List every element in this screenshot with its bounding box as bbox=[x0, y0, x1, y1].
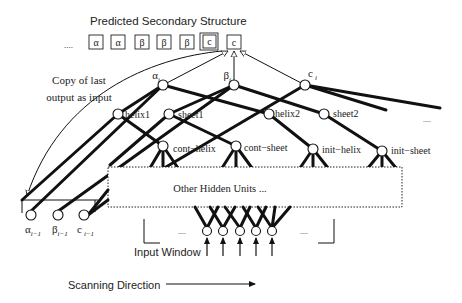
sequence-symbol: β bbox=[184, 37, 189, 48]
helix1-label: helix1 bbox=[125, 109, 150, 120]
coil-output-arrow bbox=[240, 51, 305, 85]
cont-helix-node bbox=[158, 141, 168, 151]
coil-prev-label: ci−1 bbox=[77, 223, 94, 238]
hidden-right-ellipsis: .... bbox=[423, 115, 431, 124]
feedback-label-line2: output as input bbox=[46, 91, 111, 103]
alpha-i-label: αi bbox=[152, 69, 160, 84]
sequence-symbol: β bbox=[139, 37, 144, 48]
helix2-node bbox=[264, 109, 274, 119]
init-helix-label: init−helix bbox=[322, 144, 361, 155]
hidden-units-label: Other Hidden Units ... bbox=[173, 183, 266, 194]
input-unit-node bbox=[268, 227, 277, 236]
coil-prev-node bbox=[79, 210, 89, 220]
sheet2-node bbox=[319, 109, 329, 119]
sequence-symbol: c bbox=[232, 37, 237, 48]
cont-helix-label: cont−helix bbox=[173, 143, 216, 154]
beta-i-label: βi bbox=[223, 69, 231, 84]
input-unit-node bbox=[219, 227, 228, 236]
sheet2-label: sheet2 bbox=[333, 108, 359, 119]
input-window-label: Input Window bbox=[134, 246, 201, 258]
sequence-symbol: α bbox=[93, 37, 99, 48]
alpha-output-arrow bbox=[163, 51, 228, 85]
input-unit-node bbox=[236, 227, 245, 236]
sequence-symbol: c bbox=[207, 36, 212, 47]
input-window-left-bracket bbox=[144, 219, 160, 243]
input-arrows bbox=[207, 238, 272, 256]
input-unit-node bbox=[252, 227, 261, 236]
sequence-leading-ellipsis: .... bbox=[64, 40, 73, 50]
sequence-symbol: β bbox=[161, 37, 166, 48]
sequence-boxes: α α β β β c c bbox=[89, 33, 241, 50]
input-window-right-bracket bbox=[318, 219, 334, 243]
alpha-prev-node bbox=[26, 210, 36, 220]
init-sheet-label: init−sheet bbox=[391, 145, 431, 156]
init-helix-node bbox=[308, 144, 318, 154]
feedback-label-line1: Copy of last bbox=[52, 74, 106, 86]
diagram-title: Predicted Secondary Structure bbox=[90, 15, 247, 27]
network-diagram: Predicted Secondary Structure .... α α β… bbox=[0, 0, 462, 303]
sheet1-label: sheet1 bbox=[178, 109, 204, 120]
input-connections bbox=[195, 207, 290, 228]
helix1-node bbox=[113, 109, 123, 119]
beta-prev-label: βi−1 bbox=[52, 223, 68, 238]
sheet1-node bbox=[164, 109, 174, 119]
scanning-direction-label: Scanning Direction bbox=[68, 279, 160, 291]
cont-sheet-node bbox=[231, 141, 241, 151]
input-right-ellipsis: .... bbox=[300, 227, 308, 236]
beta-prev-node bbox=[53, 210, 63, 220]
coil-i-node bbox=[300, 80, 310, 90]
helix2-label: helix2 bbox=[275, 108, 300, 119]
sequence-symbol: α bbox=[115, 37, 121, 48]
alpha-prev-label: αi−1 bbox=[25, 223, 41, 238]
input-unit-node bbox=[203, 227, 212, 236]
input-left-ellipsis: .... bbox=[178, 227, 186, 236]
coil-i-label: ci bbox=[308, 67, 317, 82]
init-sheet-node bbox=[377, 146, 387, 156]
cont-sheet-label: cont−sheet bbox=[244, 142, 288, 153]
